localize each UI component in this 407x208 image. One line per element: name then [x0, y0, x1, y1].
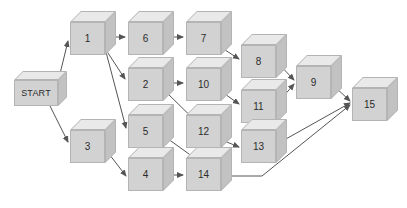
node-label: 4 [128, 158, 163, 191]
edge-start-to-n3 [50, 106, 68, 142]
node-label: 8 [241, 45, 276, 78]
node-label: 7 [186, 22, 221, 55]
node-1[interactable]: 1 [70, 22, 105, 55]
node-2[interactable]: 2 [128, 68, 163, 101]
diagram-canvas: START167210811915512133414 [0, 0, 407, 208]
node-14[interactable]: 14 [186, 158, 221, 191]
node-6[interactable]: 6 [128, 22, 163, 55]
node-4[interactable]: 4 [128, 158, 163, 191]
node-label: 5 [128, 115, 163, 148]
node-15[interactable]: 15 [352, 88, 387, 121]
node-13[interactable]: 13 [241, 130, 276, 163]
node-7[interactable]: 7 [186, 22, 221, 55]
node-label: 2 [128, 68, 163, 101]
node-start[interactable]: START [14, 80, 58, 106]
node-label: 15 [352, 88, 387, 121]
node-label: 6 [128, 22, 163, 55]
node-12[interactable]: 12 [186, 115, 221, 148]
edge-n1-to-n5 [106, 52, 126, 128]
node-10[interactable]: 10 [186, 68, 221, 101]
node-label: 10 [186, 68, 221, 101]
edge-n13-to-n15 [277, 103, 350, 144]
node-label: 9 [296, 66, 331, 99]
node-label: 12 [186, 115, 221, 148]
node-label: 14 [186, 158, 221, 191]
node-8[interactable]: 8 [241, 45, 276, 78]
node-label: 3 [70, 130, 105, 163]
node-9[interactable]: 9 [296, 66, 331, 99]
node-5[interactable]: 5 [128, 115, 163, 148]
node-label: START [14, 80, 58, 106]
node-label: 1 [70, 22, 105, 55]
node-3[interactable]: 3 [70, 130, 105, 163]
node-label: 13 [241, 130, 276, 163]
